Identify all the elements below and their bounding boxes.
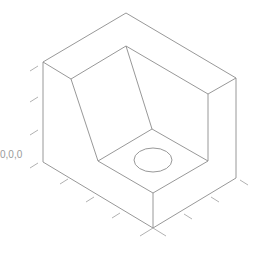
axis-ticks — [30, 66, 248, 236]
isometric-drawing — [0, 0, 266, 260]
bottom-left-edge — [43, 162, 153, 228]
part-outline — [43, 13, 236, 228]
floor-face — [98, 129, 208, 193]
floor-left-edge — [43, 161, 98, 162]
inner-left-slant — [71, 79, 98, 161]
hole — [134, 148, 172, 172]
origin-label: 0,0,0 — [0, 149, 22, 160]
